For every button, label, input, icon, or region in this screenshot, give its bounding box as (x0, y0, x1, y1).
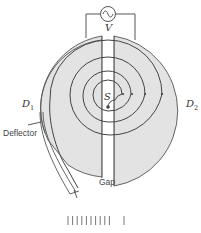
deflector-pointer (28, 122, 41, 125)
source-label: S (104, 91, 111, 102)
ion-source (106, 105, 110, 109)
marker (122, 93, 124, 95)
dee-1-label: D1 (21, 98, 34, 112)
wire-right (116, 14, 135, 40)
voltage-label: V (105, 22, 114, 33)
dee-2-label: D2 (185, 98, 198, 112)
gap-label: Gap (99, 177, 115, 187)
marker (131, 93, 133, 95)
cyclotron-diagram: V S D1 D2 Deflector Gap (0, 0, 201, 233)
marker (144, 93, 146, 95)
bottom-tick-marks (68, 216, 124, 225)
marker (161, 93, 163, 95)
dee-2 (114, 36, 178, 186)
wire-left (86, 14, 100, 38)
deflector-label: Deflector (3, 128, 37, 138)
